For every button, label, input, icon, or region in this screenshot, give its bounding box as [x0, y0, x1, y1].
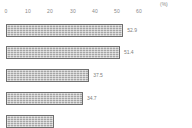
bar-value-label: 52.9 [127, 27, 137, 34]
axis-tick-label-30: 30 [70, 8, 76, 14]
bar-series-item [6, 92, 83, 105]
bar-row: 34.7 [0, 88, 192, 110]
bar-row-cutoff [0, 111, 192, 128]
axis-tick-label-0: 0 [5, 8, 8, 14]
bar-value-label: 34.7 [87, 95, 97, 102]
axis-tick-label-10: 10 [25, 8, 31, 14]
plot-area: 52.9 51.4 37.5 34.7 [0, 20, 192, 128]
bar-row: 52.9 [0, 20, 192, 42]
axis-unit-label: (%) [160, 1, 168, 7]
axis-tick-label-20: 20 [47, 8, 53, 14]
bar-series-item [6, 46, 120, 59]
x-axis: 0 10 20 30 40 50 60 (%) [0, 0, 192, 20]
bar-series-item [6, 115, 54, 128]
bar-series-item [6, 69, 89, 82]
bar-value-label: 51.4 [124, 49, 134, 56]
axis-tick-label-60: 60 [136, 8, 142, 14]
bar-row: 37.5 [0, 65, 192, 87]
bar-row: 51.4 [0, 42, 192, 64]
axis-tick-label-50: 50 [114, 8, 120, 14]
bar-series-item [6, 24, 123, 37]
axis-tick-label-40: 40 [92, 8, 98, 14]
bar-chart: 0 10 20 30 40 50 60 (%) 52.9 51.4 37.5 3… [0, 0, 192, 128]
bar-value-label: 37.5 [93, 72, 103, 79]
